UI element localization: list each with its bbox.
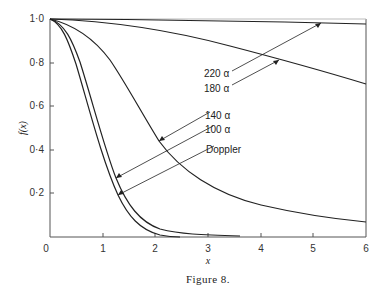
x-tick-5: 5: [310, 243, 316, 254]
figure-caption: Figure 8.: [186, 273, 230, 285]
x-tick-4: 4: [258, 243, 264, 254]
y-tick-0.4: 0·4: [30, 144, 45, 155]
label-100a: 100 α: [205, 124, 230, 135]
y-axis-title: f(x): [17, 120, 29, 135]
x-tick-3: 3: [205, 243, 211, 254]
annotation-arrows: [116, 23, 321, 195]
label-doppler: Doppler: [206, 144, 242, 155]
y-tick-0.8: 0·8: [30, 57, 45, 68]
arrow-heads: [116, 23, 321, 195]
x-tick-6: 6: [363, 243, 369, 254]
y-ticks: [50, 63, 54, 193]
y-tick-0.2: 0·2: [30, 187, 45, 198]
y-tick-1.0: 1·0: [30, 13, 45, 24]
x-tick-2: 2: [152, 243, 158, 254]
x-tick-0: 0: [43, 243, 49, 254]
label-140a: 140 α: [205, 110, 230, 121]
y-tick-0.6: 0·6: [30, 100, 45, 111]
x-axis-title: x: [205, 255, 211, 266]
label-220a: 220 α: [204, 68, 229, 79]
x-tick-1: 1: [100, 243, 106, 254]
figure-8-chart: 1·0 0·8 0·6 0·4 0·2 0 1 2 3 4 5 6 x f(x): [0, 0, 383, 286]
label-180a: 180 α: [204, 83, 229, 94]
curve-doppler: [50, 19, 180, 237]
